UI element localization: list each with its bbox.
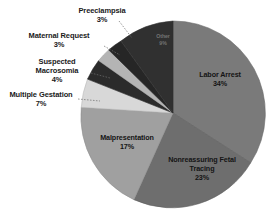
pie-label-maternal-request: Maternal Request 3% — [14, 31, 104, 49]
pie-label-preeclampsia-name: Preeclampsia — [78, 6, 125, 15]
pie-label-maternal-request-percent: 3% — [14, 40, 104, 49]
pie-label-suspected-macrosomia-name1: Suspected — [38, 57, 75, 66]
pie-label-multiple-gestation-name: Multiple Gestation — [9, 90, 72, 99]
pie-label-multiple-gestation-percent: 7% — [1, 99, 81, 108]
pie-label-preeclampsia-percent: 3% — [60, 15, 144, 24]
pie-label-labor-arrest-percent: 34% — [182, 79, 258, 88]
pie-label-nonreassuring-name1: Nonreassuring Fetal — [168, 155, 236, 164]
pie-label-nonreassuring-percent: 23% — [150, 173, 254, 182]
pie-label-suspected-macrosomia-name2: Macrosomia — [20, 66, 94, 75]
pie-label-nonreassuring-name2: Tracing — [150, 164, 254, 173]
pie-label-suspected-macrosomia: Suspected Macrosomia 4% — [20, 57, 94, 84]
pie-label-maternal-request-name: Maternal Request — [29, 31, 90, 40]
pie-label-preeclampsia: Preeclampsia 3% — [60, 6, 144, 24]
pie-label-labor-arrest: Labor Arrest 34% — [182, 70, 258, 88]
pie-label-other-percent: 9% — [143, 40, 183, 47]
pie-label-other-name: Other — [156, 33, 169, 39]
pie-label-other: Other 9% — [143, 33, 183, 46]
pie-label-labor-arrest-name: Labor Arrest — [199, 70, 241, 79]
pie-label-nonreassuring-fetal-tracing: Nonreassuring Fetal Tracing 23% — [150, 155, 254, 182]
pie-chart-figure: Preeclampsia 3% Maternal Request 3% Susp… — [0, 0, 278, 219]
pie-label-malpresentation-name: Malpresentation — [100, 133, 154, 142]
pie-label-malpresentation: Malpresentation 17% — [83, 133, 171, 151]
pie-label-suspected-macrosomia-percent: 4% — [20, 75, 94, 84]
pie-label-malpresentation-percent: 17% — [83, 142, 171, 151]
pie-label-multiple-gestation: Multiple Gestation 7% — [1, 90, 81, 108]
